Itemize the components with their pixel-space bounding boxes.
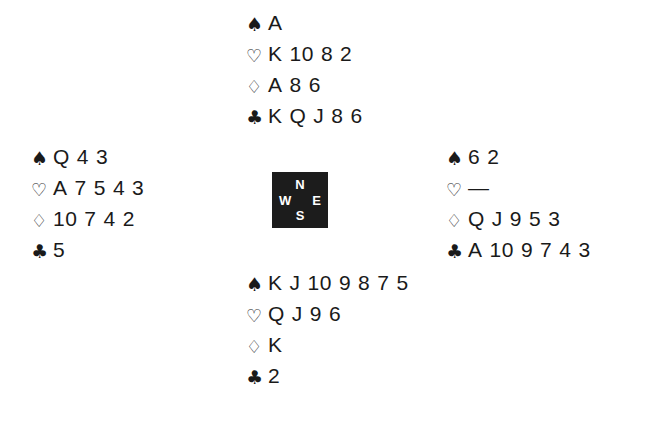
club-icon: ♣	[31, 242, 53, 261]
card-rank: 3	[578, 238, 590, 261]
card-rank: 4	[104, 207, 116, 230]
hand-north: ♠A♡K1082♢A86♣KQJ86	[246, 12, 363, 136]
compass-box: N W E S	[272, 172, 328, 228]
card-rank: 6	[309, 73, 321, 96]
card-rank: 8	[290, 73, 302, 96]
diamond-icon: ♢	[246, 338, 268, 356]
card-rank: 5	[529, 207, 541, 230]
card-rank: J	[292, 302, 303, 325]
diamond-icon: ♢	[246, 78, 268, 96]
card-rank: 9	[510, 207, 522, 230]
card-rank: 9	[310, 302, 322, 325]
card-rank: 6	[468, 145, 480, 168]
suit-cards-spade: KJ109875	[268, 272, 409, 293]
suit-cards-heart: —	[468, 177, 489, 198]
card-rank: A	[468, 238, 483, 261]
suit-cards-diamond: K	[268, 334, 283, 355]
hand-south: ♠KJ109875♡QJ96♢K♣2	[246, 272, 409, 396]
spade-icon: ♠	[246, 15, 268, 34]
heart-icon: ♡	[446, 181, 468, 199]
suit-cards-diamond: 10742	[53, 208, 135, 229]
club-icon: ♣	[246, 368, 268, 387]
suit-cards-spade: Q43	[53, 146, 108, 167]
card-rank: 7	[84, 207, 96, 230]
card-rank: 7	[75, 176, 87, 199]
card-rank: J	[290, 271, 301, 294]
suit-row-heart: ♡K1082	[246, 43, 363, 74]
suit-cards-diamond: A86	[268, 74, 321, 95]
club-icon: ♣	[446, 242, 468, 261]
card-rank: 7	[540, 238, 552, 261]
card-rank: Q	[268, 302, 285, 325]
card-rank: K	[268, 104, 283, 127]
suit-cards-diamond: QJ953	[468, 208, 560, 229]
card-rank: K	[268, 271, 283, 294]
card-rank: 2	[487, 145, 499, 168]
card-rank: 4	[559, 238, 571, 261]
card-rank: 6	[329, 302, 341, 325]
card-rank: —	[468, 176, 489, 199]
suit-cards-heart: K1082	[268, 43, 352, 64]
suit-row-club: ♣KQJ86	[246, 105, 363, 136]
card-rank: 3	[132, 176, 144, 199]
suit-row-club: ♣A109743	[446, 239, 591, 270]
card-rank: 2	[123, 207, 135, 230]
club-icon: ♣	[246, 108, 268, 127]
suit-row-spade: ♠A	[246, 12, 363, 43]
card-rank: 9	[339, 271, 351, 294]
heart-icon: ♡	[246, 47, 268, 65]
spade-icon: ♠	[246, 275, 268, 294]
card-rank: 2	[268, 364, 280, 387]
card-rank: 10	[308, 271, 332, 294]
compass-label-west: W	[279, 194, 291, 207]
card-rank: 9	[521, 238, 533, 261]
card-rank: 5	[396, 271, 408, 294]
compass-label-north: N	[295, 178, 304, 191]
heart-icon: ♡	[31, 181, 53, 199]
card-rank: J	[492, 207, 503, 230]
suit-cards-club: 5	[53, 239, 65, 260]
compass-label-east: E	[312, 194, 321, 207]
card-rank: A	[268, 73, 283, 96]
bridge-deal-diagram: ♠A♡K1082♢A86♣KQJ86 ♠Q43♡A7543♢10742♣5 ♠6…	[0, 0, 650, 422]
suit-cards-club: KQJ86	[268, 105, 363, 126]
card-rank: 2	[340, 42, 352, 65]
card-rank: J	[313, 104, 324, 127]
card-rank: 8	[331, 104, 343, 127]
suit-row-diamond: ♢A86	[246, 74, 363, 105]
diamond-icon: ♢	[446, 212, 468, 230]
suit-row-diamond: ♢10742	[31, 208, 144, 239]
suit-row-heart: ♡—	[446, 177, 591, 208]
card-rank: 10	[490, 238, 514, 261]
card-rank: 6	[351, 104, 363, 127]
card-rank: 8	[358, 271, 370, 294]
card-rank: 8	[321, 42, 333, 65]
suit-row-heart: ♡QJ96	[246, 303, 409, 334]
suit-row-spade: ♠KJ109875	[246, 272, 409, 303]
card-rank: 10	[290, 42, 314, 65]
diamond-icon: ♢	[31, 212, 53, 230]
card-rank: Q	[290, 104, 307, 127]
suit-row-club: ♣5	[31, 239, 144, 270]
spade-icon: ♠	[446, 149, 468, 168]
suit-row-club: ♣2	[246, 365, 409, 396]
card-rank: K	[268, 42, 283, 65]
card-rank: 5	[94, 176, 106, 199]
suit-row-spade: ♠62	[446, 146, 591, 177]
card-rank: A	[53, 176, 68, 199]
suit-row-heart: ♡A7543	[31, 177, 144, 208]
card-rank: 4	[77, 145, 89, 168]
card-rank: K	[268, 333, 283, 356]
spade-icon: ♠	[31, 149, 53, 168]
hand-west: ♠Q43♡A7543♢10742♣5	[31, 146, 144, 270]
card-rank: 3	[548, 207, 560, 230]
card-rank: Q	[468, 207, 485, 230]
heart-icon: ♡	[246, 307, 268, 325]
suit-row-diamond: ♢QJ953	[446, 208, 591, 239]
suit-cards-heart: A7543	[53, 177, 144, 198]
suit-cards-heart: QJ96	[268, 303, 341, 324]
card-rank: 5	[53, 238, 65, 261]
suit-cards-club: 2	[268, 365, 280, 386]
compass-label-south: S	[296, 209, 305, 222]
card-rank: 10	[53, 207, 77, 230]
